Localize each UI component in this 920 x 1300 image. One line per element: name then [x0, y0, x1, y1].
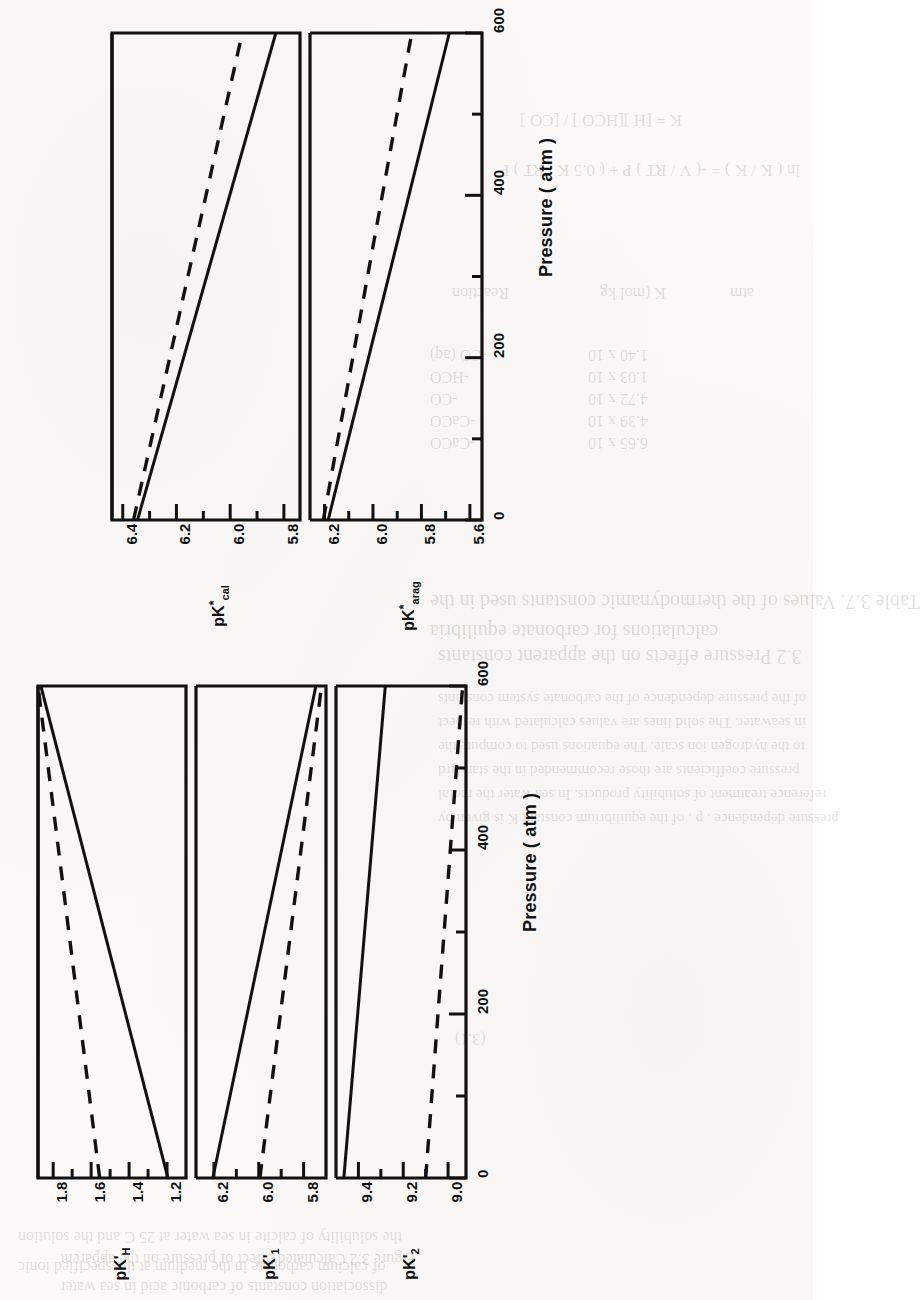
panel-frame — [336, 686, 466, 1178]
y-tick-label: 6.2 — [325, 524, 342, 545]
y-tick-label: 1.2 — [167, 1182, 184, 1203]
series-solid — [41, 686, 168, 1178]
x-tick-label: 600 — [474, 661, 491, 686]
y-tick-label: 9.0 — [448, 1182, 465, 1203]
figure-carbonic-acid-constants: 1.21.41.61.8pK'H5.86.06.2pK'19.09.29.4pK… — [0, 650, 813, 1300]
y-tick-label: 6.2 — [214, 1182, 231, 1203]
y-tick-label: 1.8 — [53, 1182, 70, 1203]
x-tick-label: 400 — [490, 170, 507, 195]
series-solid — [213, 686, 316, 1178]
y-axis-title: pK'H — [112, 1247, 132, 1280]
series-dashed — [323, 33, 411, 520]
y-tick-label: 5.8 — [304, 1182, 321, 1203]
x-tick-label: 200 — [474, 989, 491, 1014]
y-tick-label: 6.0 — [373, 524, 390, 545]
y-tick-label: 1.4 — [129, 1182, 146, 1203]
y-tick-label: 5.8 — [421, 524, 438, 545]
y-axis-title: pK*arag — [396, 581, 421, 631]
figure-calcite-aragonite: 5.86.06.26.4pK*cal5.65.86.06.2pK*arag020… — [0, 0, 813, 650]
x-tick-label: 400 — [474, 825, 491, 850]
y-tick-label: 9.4 — [358, 1182, 375, 1203]
x-axis-title: Pressure ( atm ) — [520, 793, 541, 932]
y-tick-label: 6.4 — [123, 524, 140, 545]
plot-canvas — [0, 650, 813, 1300]
x-axis-title: Pressure ( atm ) — [536, 137, 557, 276]
series-solid — [328, 33, 449, 520]
panel-frame — [196, 686, 326, 1178]
y-axis-title: pK'1 — [261, 1248, 281, 1279]
plot-canvas — [0, 0, 813, 650]
y-tick-label: 1.6 — [91, 1182, 108, 1203]
panel-frame — [310, 33, 482, 520]
y-tick-label: 5.8 — [284, 524, 301, 545]
x-tick-label: 0 — [490, 512, 507, 520]
y-tick-label: 9.2 — [403, 1182, 420, 1203]
series-solid — [344, 686, 385, 1178]
series-dashed — [260, 686, 322, 1178]
y-axis-title: pK'2 — [401, 1248, 421, 1279]
series-dashed — [38, 686, 100, 1178]
x-tick-label: 200 — [490, 333, 507, 358]
y-tick-label: 5.6 — [470, 524, 487, 545]
y-axis-title: pK*cal — [206, 585, 231, 627]
series-dashed — [133, 33, 242, 520]
series-solid — [138, 33, 276, 520]
x-tick-label: 600 — [490, 8, 507, 33]
y-tick-label: 6.0 — [259, 1182, 276, 1203]
y-tick-label: 6.0 — [230, 524, 247, 545]
y-tick-label: 6.2 — [176, 524, 193, 545]
x-tick-label: 0 — [474, 1170, 491, 1178]
